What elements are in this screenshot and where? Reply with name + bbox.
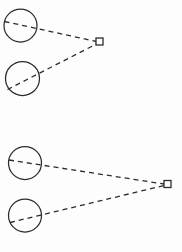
ray-upper-b (8, 44, 97, 90)
circle-upper-a (4, 9, 37, 42)
square-marker-lower (164, 181, 171, 188)
ray-lower-b (10, 186, 164, 223)
diagram-canvas (0, 0, 182, 252)
square-marker-upper (96, 38, 103, 45)
geometry-diagram (0, 0, 182, 252)
circle-lower-a (9, 147, 42, 180)
ray-lower-a (9, 160, 164, 184)
circle-upper-b (6, 62, 40, 96)
upper-configuration (4, 9, 103, 96)
ray-upper-a (5, 22, 97, 42)
lower-configuration (9, 147, 172, 233)
